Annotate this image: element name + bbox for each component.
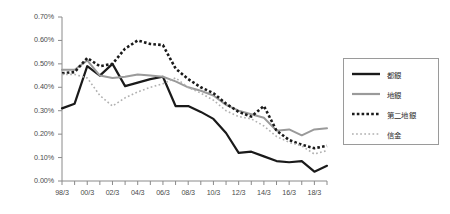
legend-label-0: 都銀 xyxy=(387,69,401,80)
legend-swatch-line-dotted-black xyxy=(352,109,380,119)
axis-group xyxy=(58,17,327,185)
y-axis-tick-label: 0.60% xyxy=(18,35,54,44)
data-series-group xyxy=(62,40,327,171)
legend-item-1: 地銀 xyxy=(352,87,401,101)
x-axis-ticks xyxy=(62,181,327,185)
y-axis-tick-label: 0.10% xyxy=(18,153,54,162)
legend-item-2: 第二地銀 xyxy=(352,107,416,121)
series-line-3 xyxy=(62,74,327,154)
legend-item-0: 都銀 xyxy=(352,67,401,81)
series-line-0 xyxy=(62,64,327,172)
y-axis-tick-label: 0.50% xyxy=(18,59,54,68)
y-axis-tick-label: 0.70% xyxy=(18,12,54,21)
legend-label-1: 地銀 xyxy=(387,89,401,100)
x-axis-tick-label: 18/3 xyxy=(299,188,329,197)
y-axis-tick-label: 0.20% xyxy=(18,129,54,138)
legend-swatch-line-solid-black xyxy=(352,69,380,79)
legend-swatch-line-dotted-gray xyxy=(352,129,380,139)
legend-swatch-line-solid-gray xyxy=(352,89,380,99)
y-axis-tick-label: 0.30% xyxy=(18,106,54,115)
legend-item-3: 信金 xyxy=(352,127,401,141)
chart-legend: 都銀 地銀 第二地銀 信金 xyxy=(343,58,439,145)
y-axis-tick-label: 0.40% xyxy=(18,82,54,91)
legend-label-3: 信金 xyxy=(387,129,401,140)
series-line-2 xyxy=(62,40,327,148)
y-axis-tick-label: 0.00% xyxy=(18,176,54,185)
y-axis-ticks xyxy=(58,17,62,181)
line-chart: 0.70%0.60%0.50%0.40%0.30%0.20%0.10%0.00%… xyxy=(0,0,450,214)
legend-label-2: 第二地銀 xyxy=(387,109,416,120)
